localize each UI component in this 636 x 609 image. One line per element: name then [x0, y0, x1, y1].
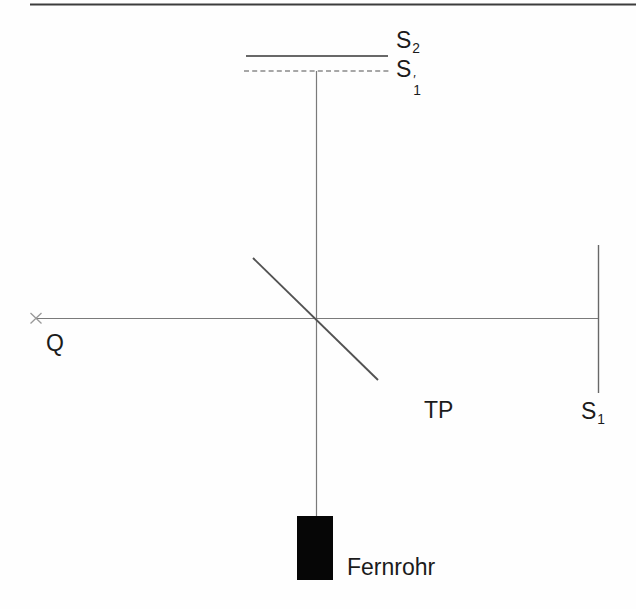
label-virtual-image-s1-stack: ′1	[413, 75, 421, 97]
label-mirror-s2-base: S	[396, 27, 411, 53]
label-mirror-s2: S2	[396, 29, 420, 56]
label-source-q: Q	[46, 332, 64, 355]
interferometer-diagram-page: S2 S′1 Q TP S1 Fernrohr	[0, 0, 636, 609]
label-beam-splitter-tp-text: TP	[424, 397, 453, 423]
label-mirror-s1-base: S	[581, 398, 596, 424]
label-telescope: Fernrohr	[347, 556, 435, 579]
label-virtual-image-s1-sub: 1	[413, 85, 421, 96]
diagram-canvas	[0, 0, 636, 609]
label-mirror-s1: S1	[581, 400, 605, 427]
label-virtual-image-s1-base: S	[396, 56, 411, 82]
label-source-q-text: Q	[46, 330, 64, 356]
label-virtual-image-s1: S′1	[396, 58, 421, 96]
label-beam-splitter-tp: TP	[424, 399, 453, 422]
label-telescope-text: Fernrohr	[347, 554, 435, 580]
label-mirror-s2-sub: 2	[412, 41, 420, 56]
telescope-rect	[297, 516, 333, 580]
label-mirror-s1-sub: 1	[597, 412, 605, 427]
